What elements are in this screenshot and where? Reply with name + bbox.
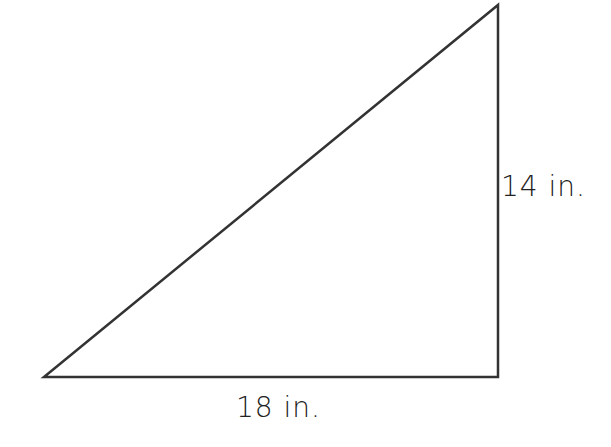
right-triangle [44, 5, 498, 377]
triangle-diagram [0, 0, 611, 447]
base-label: 18 in. [236, 391, 321, 424]
height-label: 14 in. [501, 170, 586, 203]
